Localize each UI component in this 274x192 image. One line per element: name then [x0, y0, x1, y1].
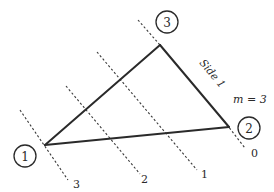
node-3-label: 3 — [163, 16, 171, 30]
node-2-label: 2 — [245, 122, 253, 136]
level-label-3: 3 — [73, 178, 80, 191]
node-1-label: 1 — [21, 150, 29, 164]
triangle-level-lines-diagram: 1 2 3 0 1 2 3 Side 1 m = 3 — [0, 0, 274, 192]
edge-1-3 — [45, 45, 160, 145]
side-1-label: Side 1 — [197, 57, 228, 90]
edge-1-2 — [45, 127, 229, 145]
level-line-2 — [66, 86, 140, 174]
level-label-1: 1 — [201, 168, 208, 181]
m-annotation: m = 3 — [233, 93, 267, 106]
diagram-canvas: 1 2 3 0 1 2 3 Side 1 m = 3 — [0, 0, 274, 192]
level-label-0: 0 — [251, 147, 258, 160]
level-label-2: 2 — [141, 173, 148, 186]
